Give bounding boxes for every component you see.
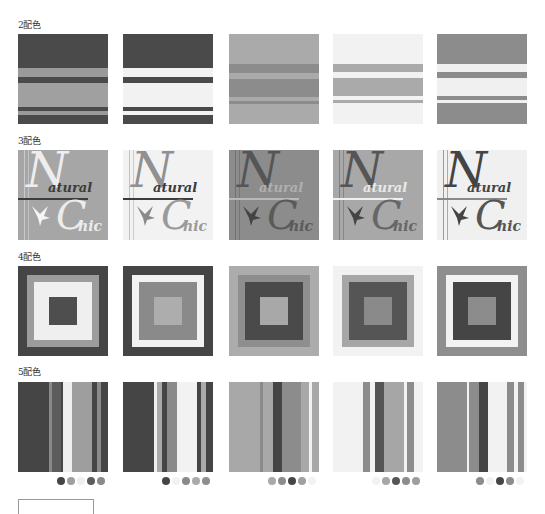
stripe-band [488, 382, 507, 472]
square-center [154, 297, 182, 325]
logo-word-hic: hic [393, 218, 417, 234]
color-dot-palette [57, 477, 105, 485]
stripe-band [437, 34, 527, 64]
color-dot-palette [268, 477, 316, 485]
logo-word-hic: hic [183, 218, 207, 234]
stripe-band [63, 382, 72, 472]
bottom-tab-frame [18, 499, 94, 514]
stripe-band [312, 382, 319, 472]
stripe-band [437, 78, 527, 96]
stripe-band [333, 64, 423, 72]
natural-chic-logo: NaturalChic [18, 150, 108, 240]
five-color-stripe-swatch [229, 382, 319, 472]
color-dot [516, 477, 524, 485]
stripe-band [414, 382, 423, 472]
stripe-band [301, 382, 309, 472]
color-dot [476, 477, 484, 485]
bird-icon [345, 202, 369, 226]
color-dot [57, 477, 65, 485]
stripe-band [18, 115, 108, 124]
stripe-band [507, 382, 514, 472]
color-dot [87, 477, 95, 485]
stripe-band [333, 34, 423, 64]
square-center [260, 297, 288, 325]
stripe-band [72, 382, 92, 472]
logo-word-hic: hic [289, 218, 313, 234]
section-label-4-colors: 4配色 [18, 250, 41, 263]
color-dot [298, 477, 306, 485]
color-dot-palette [162, 477, 210, 485]
stripe-band [273, 382, 282, 472]
stripe-band [177, 382, 197, 472]
square-center [468, 297, 496, 325]
stripe-band [437, 103, 527, 124]
stripe-band [375, 382, 384, 472]
five-color-stripe-swatch [18, 382, 108, 472]
five-color-stripe-swatch [333, 382, 423, 472]
concentric-square-swatch [123, 266, 213, 356]
stripe-band [18, 83, 108, 107]
stripe-band [333, 382, 363, 472]
stripe-band [123, 115, 213, 124]
color-dot [278, 477, 286, 485]
natural-chic-logo: NaturalChic [123, 150, 213, 240]
color-dot [392, 477, 400, 485]
stripe-band [18, 68, 108, 77]
color-dot [268, 477, 276, 485]
two-color-swatch [437, 34, 527, 124]
stripe-band [333, 103, 423, 124]
color-dot [77, 477, 85, 485]
wood-grain-line [235, 150, 236, 240]
square-center [49, 297, 77, 325]
color-dot [97, 477, 105, 485]
stripe-band [229, 64, 319, 73]
bird-icon [241, 202, 265, 226]
concentric-square-swatch [18, 266, 108, 356]
color-dot [506, 477, 514, 485]
color-dot [202, 477, 210, 485]
color-dot [162, 477, 170, 485]
stripe-band [437, 382, 467, 472]
stripe-band [229, 79, 319, 97]
five-color-stripe-swatch [437, 382, 527, 472]
two-color-swatch [333, 34, 423, 124]
wood-grain-line [443, 150, 444, 240]
natural-chic-logo: NaturalChic [437, 150, 527, 240]
two-color-swatch [123, 34, 213, 124]
color-dot [402, 477, 410, 485]
color-dot [182, 477, 190, 485]
stripe-band [407, 382, 414, 472]
bird-icon [135, 202, 159, 226]
two-color-swatch [229, 34, 319, 124]
logo-word-hic: hic [497, 218, 521, 234]
stripe-band [18, 382, 49, 472]
bird-icon [449, 202, 473, 226]
concentric-square-swatch [333, 266, 423, 356]
color-dot [496, 477, 504, 485]
color-dot [372, 477, 380, 485]
stripe-band [123, 382, 154, 472]
stripe-band [333, 78, 423, 96]
color-dot [308, 477, 316, 485]
logo-word-hic: hic [78, 218, 102, 234]
stripe-band [229, 104, 319, 124]
five-color-stripe-swatch [123, 382, 213, 472]
stripe-band [123, 83, 213, 107]
two-color-swatch [18, 34, 108, 124]
stripe-band [384, 382, 404, 472]
color-dot [192, 477, 200, 485]
square-center [364, 297, 392, 325]
color-dot-palette [476, 477, 524, 485]
stripe-band [229, 382, 260, 472]
color-dot [288, 477, 296, 485]
natural-chic-logo: NaturalChic [229, 150, 319, 240]
color-dot-palette [372, 477, 420, 485]
stripe-band [101, 382, 108, 472]
wood-grain-line [339, 150, 340, 240]
stripe-band [437, 64, 527, 72]
stripe-band [263, 382, 273, 472]
color-dot [172, 477, 180, 485]
stripe-band [469, 382, 479, 472]
natural-chic-logo: NaturalChic [333, 150, 423, 240]
wood-grain-line [129, 150, 130, 240]
